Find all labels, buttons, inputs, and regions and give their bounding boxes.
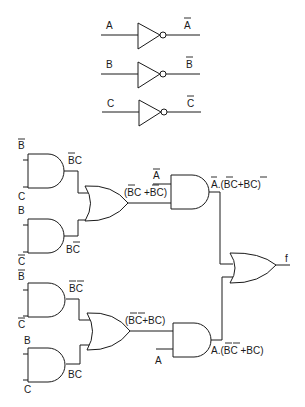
inverter-b: B B [101, 57, 200, 88]
label-b-out: B [186, 59, 193, 70]
label-cbar: C [18, 256, 25, 267]
not-gate-icon [138, 23, 160, 49]
label-upper-or-out: (BC +BC) [124, 187, 167, 198]
and-gate-icon [28, 219, 64, 253]
upper-and3: A A.(BC+BC) [153, 169, 267, 264]
label-lower-or-out: (BC+BC) [125, 315, 165, 326]
not-gate-icon [139, 100, 161, 126]
label-bbar-cbar: BC [69, 283, 83, 294]
final-or: f [230, 253, 290, 283]
lower-and3: A A.(BC +BC) [155, 277, 264, 366]
label-b-in: B [106, 59, 113, 70]
upper-and1: B C BC [18, 139, 88, 202]
and-gate-icon [28, 154, 64, 188]
label-abar: A [153, 170, 160, 181]
label-a-in: A [106, 20, 113, 31]
or-gate-icon [85, 186, 128, 221]
label-bbar-c: BC [68, 155, 82, 166]
and-gate-icon [173, 323, 211, 357]
and-gate-icon [28, 348, 65, 382]
inverter-a: A A [101, 18, 200, 49]
label-c: C [18, 191, 25, 202]
label-a-out: A [184, 20, 191, 31]
label-b-cbar: BC [66, 244, 80, 255]
or-gate-icon [87, 313, 130, 350]
not-gate-icon [138, 62, 160, 88]
label-bbar: B [18, 271, 25, 282]
label-b: B [18, 205, 25, 216]
label-bbar: B [18, 140, 25, 151]
upper-or: (BC +BC) [85, 185, 171, 221]
label-c-out: C [187, 98, 194, 109]
label-b: B [24, 335, 31, 346]
label-f: f [285, 253, 288, 264]
label-cbar: C [18, 319, 25, 330]
label-lower-and3-out: A.(BC +BC) [211, 345, 264, 356]
inverter-c: C C [102, 96, 201, 126]
lower-and2: B C BC [23, 335, 90, 395]
label-bc: BC [68, 369, 82, 380]
lower-or: (BC+BC) [87, 313, 173, 350]
upper-and2: B C BC [18, 205, 88, 267]
lower-and1: B C BC [18, 270, 90, 330]
and-gate-icon [171, 175, 209, 209]
and-gate-icon [28, 283, 65, 317]
label-c: C [24, 384, 31, 395]
or-gate-icon [230, 253, 276, 283]
label-upper-and3-out: A.(BC+BC) [211, 179, 261, 190]
label-a: A [155, 355, 162, 366]
label-c-in: C [107, 98, 114, 109]
logic-circuit-diagram: A A B B C C B C BC B C [0, 0, 305, 407]
